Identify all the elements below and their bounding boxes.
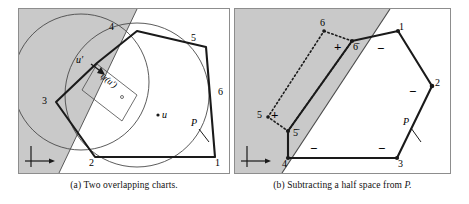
- caption-a-prefix: (a): [70, 180, 81, 190]
- vertex-dot-6-bar: [350, 39, 354, 43]
- vertex-dot-1: [396, 29, 400, 33]
- shaded-half-plane-b: [235, 9, 390, 173]
- caption-b-prefix: (b): [273, 180, 284, 190]
- vertex-dot-5: [266, 115, 270, 119]
- panel-two-overlapping-charts: 1 2 3 4 5 6 u′ u ψ(u′) P: [18, 8, 230, 174]
- vertex-dot-5-bar: [286, 129, 290, 133]
- caption-panel-a: (a) Two overlapping charts.: [18, 180, 230, 190]
- caption-a-text: Two overlapping charts.: [83, 180, 177, 190]
- panel-subtracting-half-space: 1 2 3 4 5̄ 6̄ 5 6 + + − − − − P: [234, 8, 451, 174]
- caption-panel-b: (b) Subtracting a half space from P.: [234, 180, 451, 190]
- point-psi-marker: [121, 96, 124, 99]
- panel-a-drawing: [19, 9, 229, 173]
- vertex-dot-4: [286, 156, 290, 160]
- vertex-dot-2: [430, 84, 435, 89]
- point-u-marker: [156, 113, 159, 116]
- leader-line-p-a: [199, 129, 209, 142]
- caption-b-italic-tail: P.: [404, 180, 411, 190]
- shaded-half-plane-a: [19, 9, 137, 173]
- leader-line-p-b: [411, 128, 421, 142]
- figure-container: 1 2 3 4 5 6 u′ u ψ(u′) P: [0, 0, 469, 204]
- panel-b-drawing: [235, 9, 450, 173]
- vertex-dot-6: [322, 29, 326, 33]
- vertex-dot-3: [395, 156, 399, 160]
- caption-b-text: Subtracting a half space from: [287, 180, 402, 190]
